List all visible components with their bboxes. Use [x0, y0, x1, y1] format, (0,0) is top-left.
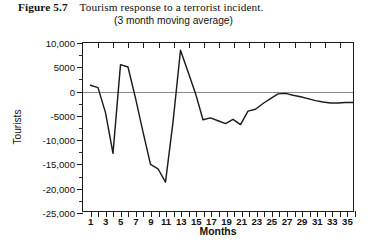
x-tick-label: 11	[161, 216, 171, 227]
x-tick	[355, 211, 356, 217]
caption-primary-line: Figure 5.7 Tourism response to a terrori…	[18, 1, 264, 13]
x-tick-label: 3	[103, 216, 108, 227]
x-tick-label: 31	[312, 216, 323, 227]
x-tick-label: 29	[297, 216, 308, 227]
x-tick-label: 13	[176, 216, 187, 227]
x-tick-label: 27	[282, 216, 293, 227]
x-tick	[98, 211, 99, 217]
x-tick	[295, 211, 296, 217]
y-tick-label: 0	[70, 86, 75, 97]
series-line-tourists	[91, 50, 353, 182]
x-tick	[234, 211, 235, 217]
x-tick	[128, 211, 129, 217]
x-tick-label: 23	[251, 216, 262, 227]
plot-area: 10,00050000-5000-10,000-15,000-20,000-25…	[82, 42, 354, 212]
y-tick-label: 5000	[54, 62, 75, 73]
x-tick	[264, 211, 265, 217]
x-tick	[310, 211, 311, 217]
x-tick	[159, 211, 160, 217]
y-tick-major	[77, 213, 83, 214]
y-tick-label: -5000	[50, 110, 75, 121]
x-tick	[189, 211, 190, 217]
x-tick-label: 7	[133, 216, 138, 227]
x-tick-label: 5	[118, 216, 123, 227]
x-tick	[219, 211, 220, 217]
y-tick-label: -15,000	[42, 159, 75, 170]
x-tick	[249, 211, 250, 217]
x-tick	[174, 211, 175, 217]
figure-subtitle-label: (3 month moving average)	[114, 15, 233, 26]
figure-caption: Figure 5.7 Tourism response to a terrori…	[18, 1, 358, 29]
figure-title-label: Tourism response to a terrorist incident…	[79, 1, 263, 13]
x-tick	[325, 211, 326, 217]
series-plot-svg	[83, 43, 353, 211]
figure-number-label: Figure 5.7	[18, 1, 68, 13]
x-tick	[143, 211, 144, 217]
x-tick-label: 25	[267, 216, 278, 227]
y-tick-label: -20,000	[42, 183, 75, 194]
x-tick-label: 21	[236, 216, 247, 227]
x-tick	[340, 211, 341, 217]
y-tick-label: 10,000	[46, 38, 75, 49]
y-axis-title: Tourists	[12, 109, 23, 144]
y-tick-label: -25,000	[42, 208, 75, 219]
x-tick-label: 33	[327, 216, 338, 227]
x-tick-label: 35	[342, 216, 353, 227]
x-tick	[279, 211, 280, 217]
figure-container: Figure 5.7 Tourism response to a terrori…	[0, 0, 375, 247]
x-tick-label: 1	[88, 216, 93, 227]
y-tick-label: -10,000	[42, 135, 75, 146]
x-tick-label: 9	[148, 216, 153, 227]
x-tick	[204, 211, 205, 217]
x-axis-title: Months	[200, 226, 237, 237]
x-tick	[113, 211, 114, 217]
